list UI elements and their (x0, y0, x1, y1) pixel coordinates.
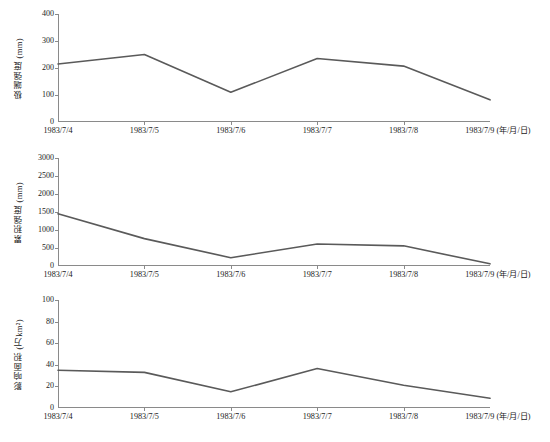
y-axis-tick-label: 0 (18, 262, 54, 270)
x-axis-tick-label: 1983/7/6 (216, 413, 245, 421)
y-axis-tick-label: 1000 (18, 226, 54, 234)
y-axis-tick-label: 500 (18, 244, 54, 252)
x-axis-tick-label: 1983/7/6 (216, 127, 245, 135)
x-axis-tick-label: 1983/7/5 (130, 271, 159, 279)
y-axis-tick-label: 20 (18, 382, 54, 390)
chart-figure: 极端强度 (mm)01002003004001983/7/41983/7/519… (0, 0, 550, 442)
x-axis-tick-label: 1983/7/8 (389, 413, 418, 421)
series-polyline (58, 369, 490, 399)
y-axis-title: 影响面积 (万km²) (8, 300, 30, 408)
y-axis-tick-label: 80 (18, 318, 54, 326)
x-axis-tick-label: 1983/7/9 (年/月/日) (465, 413, 530, 421)
x-axis-tick-label: 1983/7/5 (130, 413, 159, 421)
x-axis-tick-label: 1983/7/7 (303, 271, 332, 279)
panel-affected-area: 影响面积 (万km²)0204060801001983/7/41983/7/51… (0, 300, 550, 428)
x-axis-tick-label: 1983/7/7 (303, 413, 332, 421)
series-polyline (58, 55, 490, 100)
series-polyline (58, 214, 490, 264)
panel-cumulative-intensity: 累积强度 (mm)0500100015002000250030001983/7/… (0, 158, 550, 286)
x-axis-labels: 1983/7/41983/7/51983/7/61983/7/71983/7/8… (0, 271, 550, 285)
data-series-line (58, 158, 490, 266)
plot-area: 050010001500200025003000 (58, 158, 490, 266)
plot-area: 0100200300400 (58, 14, 490, 122)
y-axis-tick-label: 40 (18, 361, 54, 369)
x-axis-tick-label: 1983/7/9 (年/月/日) (465, 271, 530, 279)
x-axis-tick-label: 1983/7/5 (130, 127, 159, 135)
y-axis-tick-label: 0 (18, 404, 54, 412)
plot-area: 020406080100 (58, 300, 490, 408)
x-axis-labels: 1983/7/41983/7/51983/7/61983/7/71983/7/8… (0, 127, 550, 141)
y-axis-tick-label: 200 (18, 64, 54, 72)
y-axis-title-label: 影响面积 (万km²) (15, 319, 24, 390)
y-axis-tick-label: 2000 (18, 190, 54, 198)
x-axis-tick-label: 1983/7/8 (389, 271, 418, 279)
y-axis-tick-label: 100 (18, 296, 54, 304)
x-axis-tick-label: 1983/7/4 (43, 271, 72, 279)
y-axis-tick-label: 0 (18, 118, 54, 126)
x-axis-tick-label: 1983/7/6 (216, 271, 245, 279)
y-axis-tick-label: 400 (18, 10, 54, 18)
data-series-line (58, 300, 490, 408)
x-axis-tick-label: 1983/7/7 (303, 127, 332, 135)
x-axis-tick-label: 1983/7/9 (年/月/日) (465, 127, 530, 135)
panel-extreme-intensity: 极端强度 (mm)01002003004001983/7/41983/7/519… (0, 14, 550, 142)
y-axis-tick-label: 3000 (18, 154, 54, 162)
x-axis-tick-label: 1983/7/4 (43, 127, 72, 135)
x-axis-tick-label: 1983/7/4 (43, 413, 72, 421)
data-series-line (58, 14, 490, 122)
x-axis-tick-label: 1983/7/8 (389, 127, 418, 135)
y-axis-tick-label: 2500 (18, 172, 54, 180)
y-axis-tick-label: 100 (18, 91, 54, 99)
y-axis-tick-label: 300 (18, 37, 54, 45)
y-axis-tick-label: 60 (18, 339, 54, 347)
y-axis-tick-label: 1500 (18, 208, 54, 216)
x-axis-labels: 1983/7/41983/7/51983/7/61983/7/71983/7/8… (0, 413, 550, 427)
